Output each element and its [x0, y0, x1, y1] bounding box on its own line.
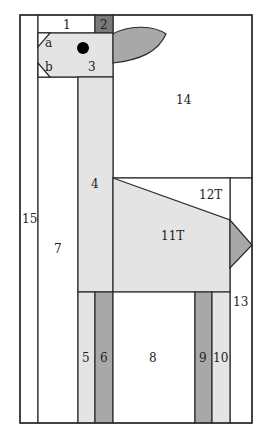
label-8: 8	[149, 351, 157, 365]
label-12T: 12T	[199, 188, 222, 202]
label-b: b	[45, 60, 53, 74]
label-7: 7	[54, 242, 62, 256]
label-1: 1	[63, 18, 71, 32]
label-14: 14	[176, 93, 192, 107]
label-a: a	[45, 36, 52, 50]
quilt-pattern-diagram: 1 2 a b 3 4 5 6 7 8 9 10 11T 12T 13 14 1…	[0, 0, 267, 443]
label-2: 2	[100, 18, 108, 32]
label-6: 6	[100, 351, 108, 365]
label-11T: 11T	[161, 229, 184, 243]
label-10: 10	[213, 351, 228, 365]
label-15: 15	[22, 212, 37, 226]
eye-icon	[77, 42, 89, 54]
label-13: 13	[233, 295, 248, 309]
label-9: 9	[199, 351, 207, 365]
label-5: 5	[82, 351, 90, 365]
label-4: 4	[91, 177, 99, 191]
label-3: 3	[88, 60, 96, 74]
